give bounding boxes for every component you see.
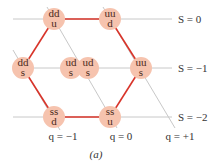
svg-text:s: s	[21, 66, 25, 78]
charge-label-0: q = 0	[110, 130, 133, 142]
node-dds: dd s	[12, 56, 34, 79]
baryon-octet-diagram: dd u uu d dd s ud s ud s uu s ss d ss u …	[0, 0, 218, 166]
svg-text:s: s	[139, 66, 143, 78]
strangeness-label-minus1: S = −1	[178, 62, 208, 74]
node-uds-right: ud s	[77, 56, 99, 79]
svg-text:u: u	[51, 17, 57, 29]
svg-text:d: d	[51, 115, 57, 127]
node-ddu: dd u	[43, 7, 65, 30]
strangeness-label-0: S = 0	[178, 13, 202, 25]
svg-text:d: d	[107, 17, 113, 29]
strangeness-label-minus2: S = −2	[178, 111, 208, 123]
node-uud: uu d	[99, 7, 121, 30]
figure-caption: (a)	[90, 148, 103, 161]
charge-label-minus1: q = −1	[49, 130, 78, 142]
charge-label-plus1: q = +1	[166, 130, 195, 142]
node-ssu: ss u	[99, 105, 121, 128]
svg-text:s: s	[86, 66, 90, 78]
svg-text:s: s	[69, 66, 73, 78]
svg-text:u: u	[107, 115, 113, 127]
node-uus: uu s	[130, 56, 152, 79]
node-ssd: ss d	[43, 105, 65, 128]
